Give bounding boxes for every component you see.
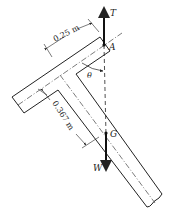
- dimension-label-0-367m: 0.367 m: [50, 99, 76, 132]
- tension-label: T: [110, 8, 117, 18]
- centerlines: [18, 33, 155, 203]
- t-bar-body: [12, 37, 162, 207]
- diagram-canvas: T A θ 0.25 m 0.367 m G W: [0, 0, 180, 219]
- center-of-gravity-label: G: [110, 129, 117, 139]
- point-a-label: A: [108, 42, 116, 52]
- dimension-label-0-25m: 0.25 m: [52, 23, 81, 44]
- weight-label: W: [93, 163, 103, 173]
- point-a: [102, 43, 105, 46]
- angle-label: θ: [87, 71, 92, 80]
- angle-arc: [82, 63, 103, 71]
- vertical-reference-line: [104, 45, 106, 135]
